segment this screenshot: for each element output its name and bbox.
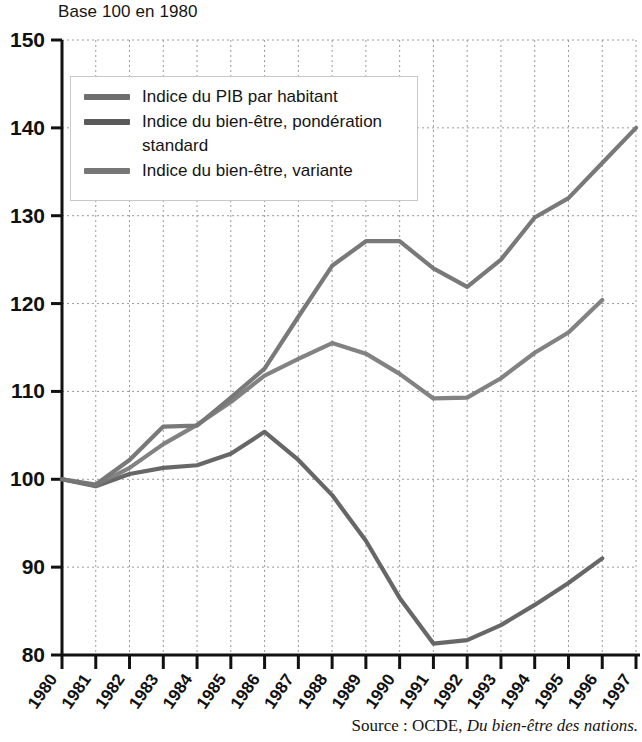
y-axis-tick-label: 90	[22, 555, 45, 578]
legend-item-label: Indice du bien-être, pondération standar…	[142, 110, 382, 158]
x-axis-tick-label: 1980	[24, 670, 61, 712]
data-series-layer	[62, 128, 636, 644]
x-axis-tick-label: 1995	[530, 670, 567, 712]
x-axis-tick-label: 1982	[92, 670, 129, 712]
x-axis-tick-label: 1988	[294, 670, 331, 712]
source-work-title: Du bien-être des nations.	[467, 716, 638, 735]
x-axis-tick-label: 1986	[227, 670, 264, 712]
source-prefix: Source : OCDE,	[352, 716, 463, 735]
legend-color-swatch	[84, 168, 130, 174]
x-axis-tick-label: 1989	[328, 670, 365, 712]
x-axis-tick-label: 1991	[395, 670, 432, 712]
x-axis-tick-label: 1987	[260, 670, 297, 712]
y-axis-tick-label: 100	[10, 467, 45, 490]
y-axis-tick-label: 140	[10, 116, 45, 139]
y-axis-tick-label: 150	[10, 28, 45, 51]
legend-item-label: Indice du PIB par habitant	[142, 85, 338, 109]
legend-item: Indice du bien-être, pondération standar…	[84, 110, 410, 158]
y-axis-tick-label: 120	[10, 292, 45, 315]
x-axis-tick-label: 1994	[497, 670, 535, 712]
chart-figure: Base 100 en 1980 8090100110120130140150 …	[0, 0, 642, 742]
x-axis-tick-label: 1996	[564, 670, 601, 712]
x-axis-tick-label: 1990	[362, 670, 399, 712]
source-note: Source : OCDE, Du bien-être des nations.	[352, 716, 638, 736]
x-axis-tick-label: 1997	[598, 670, 635, 712]
x-axis-tick-label: 1992	[429, 670, 466, 712]
legend-color-swatch	[84, 94, 130, 100]
x-axis-ticks	[62, 655, 636, 669]
legend: Indice du PIB par habitantIndice du bien…	[70, 76, 418, 201]
y-axis-ticks	[51, 40, 62, 655]
legend-item-label: Indice du bien-être, variante	[142, 159, 353, 183]
legend-color-swatch	[84, 119, 130, 125]
y-axis-tick-label: 130	[10, 204, 45, 227]
data-series-line-3	[62, 300, 602, 485]
x-axis-tick-label: 1993	[463, 670, 500, 712]
x-axis-labels: 1980198119821983198419851986198719881989…	[24, 670, 635, 712]
y-axis-tick-label: 110	[11, 379, 45, 402]
y-axis-labels: 8090100110120130140150	[10, 28, 45, 666]
x-axis-tick-label: 1983	[125, 670, 162, 712]
x-axis-tick-label: 1985	[193, 670, 230, 712]
y-axis-tick-label: 80	[22, 643, 45, 666]
legend-item: Indice du PIB par habitant	[84, 85, 410, 109]
legend-item: Indice du bien-être, variante	[84, 159, 410, 183]
x-axis-tick-label: 1981	[58, 670, 95, 712]
x-axis-tick-label: 1984	[159, 670, 197, 712]
